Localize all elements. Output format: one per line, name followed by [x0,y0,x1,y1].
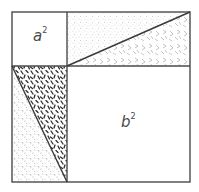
b-squared-label: b2 [121,115,136,130]
b-label-base: b [121,113,131,131]
a-label-base: a [33,27,42,45]
pythagorean-diagram: a2 b2 [0,0,199,192]
diagram-svg [0,0,199,192]
a-label-exponent: 2 [42,26,47,35]
a-squared-label: a2 [33,29,47,44]
b-label-exponent: 2 [131,112,136,121]
